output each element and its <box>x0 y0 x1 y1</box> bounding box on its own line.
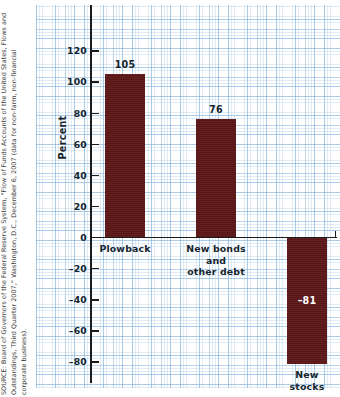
zero-baseline-end-tick <box>335 231 336 238</box>
category-label-plowback: Plowback <box>80 243 170 255</box>
bar-new-bonds-and-other-debt[interactable] <box>196 119 236 237</box>
source-note-line-2: Outstandings, Third Quarter 2007,” Washi… <box>10 0 20 397</box>
y-tick-label-neg20: –20 <box>69 263 87 274</box>
y-tick-label-80: 80 <box>74 108 87 119</box>
y-tick-label-neg60: –60 <box>69 325 87 336</box>
y-tick-label-100: 100 <box>67 76 87 87</box>
bar-value-new-stocks: –81 <box>287 295 327 306</box>
y-tick-label-neg80: –80 <box>69 356 87 367</box>
y-tick-60 <box>92 144 99 145</box>
y-tick-120 <box>92 50 99 51</box>
figure-top-margin <box>36 0 340 5</box>
y-tick-label-40: 40 <box>74 170 87 181</box>
y-axis-title: Percent <box>57 116 68 160</box>
y-tick-neg80 <box>92 361 99 362</box>
y-tick-40 <box>92 175 99 176</box>
y-tick-label-120: 120 <box>67 45 87 56</box>
y-tick-label-0: 0 <box>80 232 87 243</box>
y-tick-20 <box>92 206 99 207</box>
bar-value-new-bonds: 76 <box>196 104 236 115</box>
category-label-new-stocks: New stocks <box>282 369 332 392</box>
y-axis-line <box>90 5 92 383</box>
y-tick-neg40 <box>92 299 99 300</box>
y-tick-label-neg40: –40 <box>69 294 87 305</box>
y-tick-label-20: 20 <box>74 201 87 212</box>
y-tick-label-60: 60 <box>74 139 87 150</box>
source-note-line-3: corporate business). <box>20 0 30 397</box>
bar-value-plowback: 105 <box>105 59 145 70</box>
y-tick-80 <box>92 113 99 114</box>
y-tick-neg20 <box>92 268 99 269</box>
y-tick-neg60 <box>92 330 99 331</box>
category-label-new-bonds-and-other-debt: New bonds and other debt <box>171 243 261 278</box>
chart-figure: Percent 120 100 80 60 40 20 0 –20 –40 –6… <box>0 0 340 397</box>
bar-plowback[interactable] <box>105 74 145 237</box>
source-note-line-1: SOURCE: Board of Governors of the Federa… <box>0 0 10 397</box>
source-note: SOURCE: Board of Governors of the Federa… <box>0 0 32 397</box>
y-tick-100 <box>92 81 99 82</box>
